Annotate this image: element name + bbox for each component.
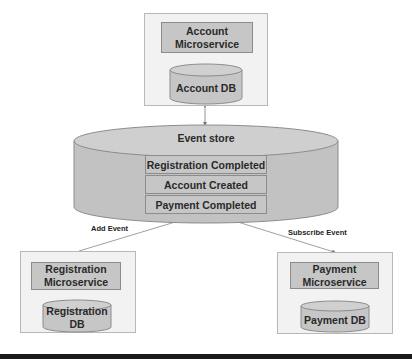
payment-db-label: Payment DB — [300, 310, 370, 330]
subscribe-event-label: Subscribe Event — [288, 228, 347, 237]
registration-db-label: Registration DB — [46, 303, 108, 333]
bottom-border — [0, 354, 412, 359]
account-microservice-box: Account Microservice — [161, 22, 253, 53]
event-registration-completed: Registration Completed — [145, 155, 267, 174]
account-microservice-label: Account Microservice — [172, 25, 242, 51]
payment-microservice-box: Payment Microservice — [290, 262, 379, 289]
event-payment-completed: Payment Completed — [145, 195, 267, 214]
payment-microservice-label: Payment Microservice — [300, 263, 370, 289]
registration-microservice-box: Registration Microservice — [31, 262, 121, 290]
event-account-created: Account Created — [145, 175, 267, 194]
registration-microservice-label: Registration Microservice — [36, 263, 116, 289]
account-db-label: Account DB — [169, 75, 243, 101]
add-event-label: Add Event — [91, 224, 128, 233]
event-store-title: Event store — [73, 132, 339, 144]
